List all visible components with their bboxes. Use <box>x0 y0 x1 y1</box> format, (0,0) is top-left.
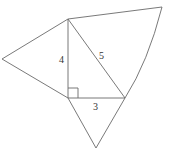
label-hypotenuse: 5 <box>99 50 104 61</box>
hypotenuse <box>68 19 125 98</box>
top-right-triangle-right-edge <box>125 7 162 98</box>
top-right-triangle-top-edge <box>68 7 162 19</box>
label-vertical-leg: 4 <box>59 54 64 65</box>
right-angle-marker <box>68 88 78 98</box>
pythagorean-diagram: 4 5 3 <box>0 0 170 155</box>
label-horizontal-leg: 3 <box>93 101 98 112</box>
